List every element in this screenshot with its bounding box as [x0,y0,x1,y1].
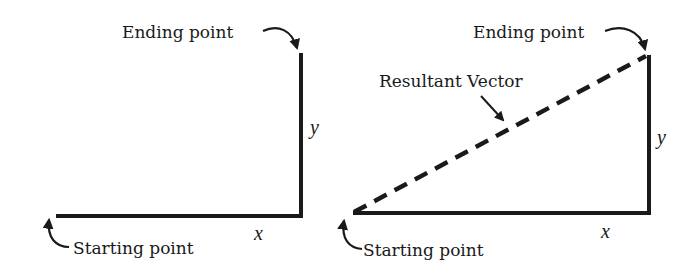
left-ending-arrow-icon [263,28,297,48]
left-y-label: y [310,117,319,137]
resultant-vector-label: Resultant Vector [379,73,523,90]
resultant-pointer-arrow-icon [481,96,503,120]
vector-addition-diagram: Ending point Starting point x y Ending p… [0,0,699,278]
left-ending-point-label: Ending point [122,24,233,41]
right-y-label: y [657,127,666,147]
right-starting-arrow-icon [343,221,362,249]
right-ending-point-label: Ending point [473,24,584,41]
left-starting-arrow-icon [49,220,69,247]
left-starting-point-label: Starting point [73,240,194,257]
right-x-label: x [601,221,610,241]
left-panel [49,28,302,247]
right-starting-point-label: Starting point [363,242,484,259]
diagram-graphics [0,0,699,278]
right-ending-arrow-icon [605,28,645,49]
right-panel [343,28,650,249]
left-x-label: x [254,223,263,243]
